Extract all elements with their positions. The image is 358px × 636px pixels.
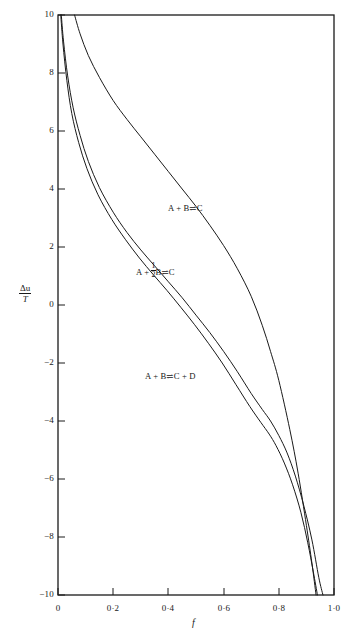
curve-label-middle-prefix: A +	[136, 267, 151, 277]
y-tick-label-m8: −8	[44, 531, 54, 541]
y-tick-label-m10: −10	[39, 589, 54, 599]
x-tick-label-0-6: 0·6	[209, 603, 239, 613]
curve-label-lower-suffix: C + D	[174, 371, 196, 381]
x-tick-label-0-4: 0·4	[153, 603, 183, 613]
data-curves	[61, 15, 323, 595]
curve-label-middle: A + 12B⇌C	[136, 262, 175, 280]
y-tick-label-m2: −2	[44, 357, 54, 367]
x-axis-ticks	[58, 588, 334, 595]
curve-label-upper-arrow: ⇌	[189, 203, 196, 213]
curve-label-upper-suffix: C	[197, 203, 203, 213]
axes-border	[58, 15, 334, 595]
x-tick-label-0: 0	[43, 603, 73, 613]
y-axis-title-denominator: T	[19, 294, 31, 304]
y-tick-label-8: 8	[49, 67, 54, 77]
y-tick-label-4: 4	[49, 183, 54, 193]
curve-label-lower: A + B⇌C + D	[145, 371, 196, 381]
curve-label-upper-prefix: A + B	[168, 203, 189, 213]
x-tick-label-1-0: 1·0	[319, 603, 349, 613]
y-tick-label-6: 6	[49, 125, 54, 135]
x-tick-label-0-2: 0·2	[98, 603, 128, 613]
y-tick-label-2: 2	[49, 241, 54, 251]
y-tick-label-m6: −6	[44, 473, 54, 483]
curve-label-middle-suffix: C	[169, 267, 175, 277]
y-tick-label-m4: −4	[44, 415, 54, 425]
y-axis-ticks	[58, 15, 65, 595]
y-tick-label-0: 0	[49, 299, 54, 309]
chart-figure: 10 8 6 4 2 0 −2 −4 −6 −8 −10 0 0·2 0·4 0…	[0, 0, 358, 636]
curve-a-plus-half-b-to-c	[61, 15, 323, 595]
curve-label-lower-prefix: A + B	[145, 371, 166, 381]
curve-label-middle-arrow: ⇌	[161, 267, 168, 277]
y-axis-title: Δu T	[19, 284, 31, 304]
y-tick-label-10: 10	[45, 9, 54, 19]
curve-a-plus-b-to-c-plus-d	[61, 15, 318, 595]
curve-label-lower-arrow: ⇌	[166, 371, 173, 381]
curve-a-plus-b-to-c	[75, 15, 317, 595]
plot-frame	[58, 15, 334, 595]
y-axis-title-numerator: Δu	[19, 284, 31, 294]
x-axis-title: f	[192, 617, 195, 628]
curve-label-upper: A + B⇌C	[168, 203, 203, 213]
x-tick-label-0-8: 0·8	[264, 603, 294, 613]
